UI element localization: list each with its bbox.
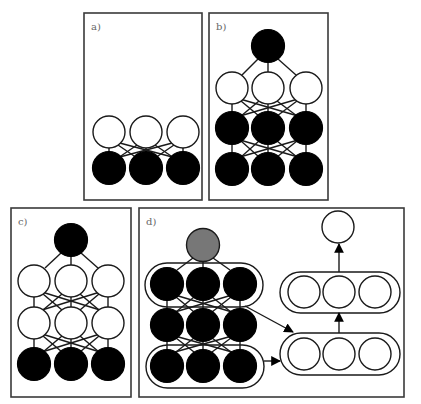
node-gray-top xyxy=(187,229,220,262)
panel-d-left-row-2 xyxy=(151,309,257,342)
node-white xyxy=(288,276,320,308)
node-white-top-right xyxy=(322,211,354,243)
node-black xyxy=(224,268,257,301)
panel-d-left-row-1 xyxy=(151,268,257,301)
panel-b-white-row xyxy=(216,72,322,104)
panel-a-label: a) xyxy=(91,21,101,32)
node-white xyxy=(288,338,320,370)
node-white xyxy=(252,72,284,104)
node-white xyxy=(216,72,248,104)
figure-canvas: a) b) xyxy=(0,0,421,404)
panel-a-black-row xyxy=(93,152,200,185)
node-black xyxy=(290,112,323,145)
node-white xyxy=(323,276,355,308)
node-white xyxy=(359,338,391,370)
node-black xyxy=(167,152,200,185)
node-white xyxy=(323,338,355,370)
node-black xyxy=(252,112,285,145)
node-black xyxy=(187,309,220,342)
node-white xyxy=(55,307,87,339)
node-black xyxy=(151,309,184,342)
node-white xyxy=(130,116,162,148)
node-black xyxy=(216,112,249,145)
panel-a-white-row xyxy=(93,116,199,148)
node-white xyxy=(18,307,50,339)
panel-c-white-row-2 xyxy=(18,307,124,339)
panel-a: a) xyxy=(84,13,202,200)
node-black xyxy=(151,350,184,383)
node-black xyxy=(55,348,88,381)
node-black-top xyxy=(252,30,285,63)
node-black xyxy=(18,348,51,381)
node-black xyxy=(187,268,220,301)
node-white xyxy=(92,307,124,339)
panel-c-label: c) xyxy=(18,216,28,227)
panel-b-black-row-1 xyxy=(216,112,323,145)
node-black-top xyxy=(55,224,88,257)
node-black xyxy=(93,152,126,185)
panel-c-white-row-1 xyxy=(18,265,124,297)
panel-d: d) xyxy=(139,208,404,397)
panel-c: c) xyxy=(11,208,131,397)
node-black xyxy=(130,152,163,185)
node-black xyxy=(290,153,323,186)
node-white xyxy=(359,276,391,308)
panel-d-label: d) xyxy=(146,216,156,227)
node-black xyxy=(252,153,285,186)
panel-d-right-lower-row xyxy=(288,338,391,370)
panel-b-black-row-2 xyxy=(216,153,323,186)
node-black xyxy=(216,153,249,186)
node-white xyxy=(93,116,125,148)
node-black xyxy=(224,309,257,342)
node-white xyxy=(92,265,124,297)
panel-d-right-upper-row xyxy=(288,276,391,308)
node-white xyxy=(290,72,322,104)
node-white xyxy=(55,265,87,297)
panel-b: b) xyxy=(209,13,328,200)
node-white xyxy=(18,265,50,297)
node-black xyxy=(187,350,220,383)
node-white xyxy=(167,116,199,148)
panel-c-black-row xyxy=(18,348,125,381)
panel-b-label: b) xyxy=(216,21,226,32)
node-black xyxy=(224,350,257,383)
panel-d-left-row-3 xyxy=(151,350,257,383)
node-black xyxy=(151,268,184,301)
node-black xyxy=(92,348,125,381)
